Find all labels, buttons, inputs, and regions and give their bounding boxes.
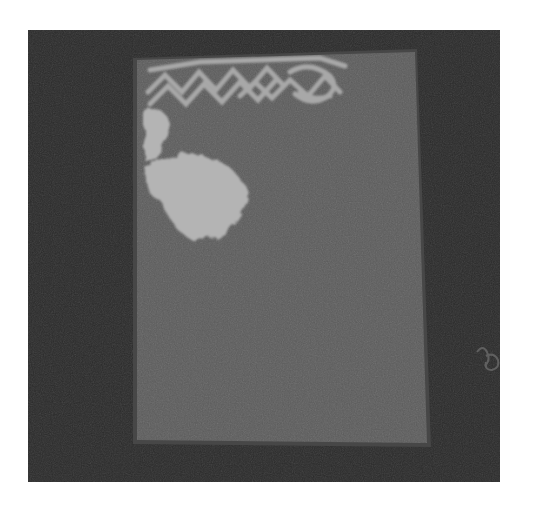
faint-mark <box>477 348 498 370</box>
photo-scene <box>0 0 552 506</box>
